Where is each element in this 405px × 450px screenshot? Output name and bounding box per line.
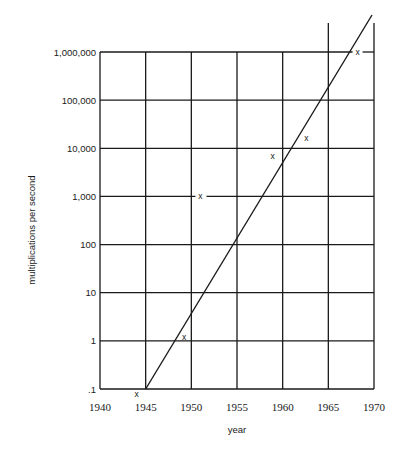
x-tick-label: 1945	[135, 401, 158, 413]
x-marker-icon: x	[355, 47, 360, 57]
y-tick-label: 100,000	[62, 95, 96, 106]
plot-grid	[100, 23, 374, 389]
y-tick-label: 1	[91, 335, 96, 346]
x-tick-label: 1955	[226, 401, 249, 413]
x-axis-label: year	[228, 424, 246, 435]
x-marker-icon: x	[198, 191, 203, 201]
y-axis-label: multiplications per second	[26, 175, 37, 284]
y-tick-label: 1,000,000	[54, 47, 96, 58]
x-marker-icon: x	[304, 133, 309, 143]
x-tick-label: 1965	[317, 401, 340, 413]
y-tick-label: 10	[85, 287, 96, 298]
trend-line	[146, 15, 372, 389]
x-marker-icon: x	[270, 151, 275, 161]
y-tick-label: 10,000	[67, 143, 96, 154]
y-tick-label: .1	[88, 384, 96, 395]
x-marker-icon: x	[134, 389, 139, 399]
trend-line-path	[146, 15, 372, 389]
y-tick-label: 100	[80, 239, 96, 250]
y-axis-ticks: .11101001,00010,000100,0001,000,000	[54, 47, 96, 395]
chart: .11101001,00010,000100,0001,000,000 1940…	[0, 0, 405, 450]
x-marker-icon: x	[182, 332, 187, 342]
x-axis-ticks: 1940194519501955196019651970	[89, 401, 386, 413]
x-tick-label: 1960	[272, 401, 295, 413]
x-tick-label: 1950	[180, 401, 203, 413]
x-tick-label: 1940	[89, 401, 112, 413]
x-tick-label: 1970	[363, 401, 386, 413]
y-tick-label: 1,000	[72, 191, 96, 202]
